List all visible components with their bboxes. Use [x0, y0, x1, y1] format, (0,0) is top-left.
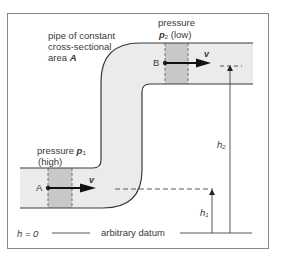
velocity-b-label: v — [204, 49, 209, 60]
p1-note: (high) — [38, 156, 62, 167]
point-a-label: A — [36, 182, 42, 193]
h1-arrow-icon — [209, 189, 215, 195]
h2-subscript: 2 — [222, 144, 225, 150]
velocity-a-label: v — [89, 175, 94, 186]
pipe-label-area-word: area — [48, 52, 70, 63]
pressure-p2-label: pressure — [158, 17, 195, 28]
datum-label: arbitrary datum — [101, 227, 165, 238]
h2-label: h2 — [217, 139, 226, 153]
pressure-p2-word: pressure — [158, 17, 195, 28]
p2-subscript: 2 — [165, 34, 168, 40]
area-symbol: A — [70, 52, 77, 63]
h1-label: h1 — [200, 207, 209, 221]
pipe-label-line2: cross-sectional — [48, 41, 115, 52]
pressure-p2-value: p2 (low) — [159, 29, 191, 43]
pipe-label-line3: area A — [48, 52, 115, 63]
pipe-label: pipe of constant cross-sectional area A — [48, 30, 115, 63]
p2-note: (low) — [171, 29, 192, 40]
p1-subscript: 1 — [82, 150, 85, 156]
point-b-label: B — [153, 57, 159, 68]
pipe-label-line1: pipe of constant — [48, 30, 115, 41]
h-zero-label: h = 0 — [17, 228, 38, 239]
pressure-p1-word: pressure — [37, 145, 74, 156]
pipe-diagram — [0, 0, 283, 256]
h1-subscript: 1 — [205, 212, 208, 218]
